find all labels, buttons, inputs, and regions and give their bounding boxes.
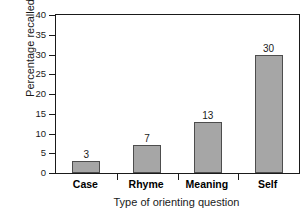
y-axis-tick: 20 (49, 94, 56, 95)
bar: 13 (194, 122, 222, 173)
y-axis-tick: 0 (49, 173, 56, 174)
bar-value-label: 30 (263, 43, 274, 54)
y-axis-tick: 5 (49, 153, 56, 154)
bar: 30 (255, 55, 283, 174)
y-axis-tick-label: 0 (16, 167, 46, 178)
y-axis-tick-label: 30 (16, 49, 46, 60)
x-axis-category-label: Rhyme (116, 178, 177, 190)
y-axis-tick-label: 20 (16, 88, 46, 99)
x-axis-category-label: Case (55, 178, 116, 190)
x-axis-category-label: Self (237, 178, 298, 190)
bar-value-label: 13 (202, 110, 213, 121)
bar-chart-figure: Percentage recalled 05101520253035403713… (0, 0, 308, 222)
bar-value-label: 7 (144, 133, 150, 144)
plot-area: 0510152025303540371330 (55, 14, 300, 174)
x-axis-title: Type of orienting question (55, 196, 298, 208)
bar-value-label: 3 (84, 149, 90, 160)
y-axis-tick: 25 (49, 74, 56, 75)
y-axis-tick-label: 10 (16, 128, 46, 139)
y-axis-tick-label: 40 (16, 9, 46, 20)
y-axis-tick: 30 (49, 55, 56, 56)
y-axis-tick-label: 5 (16, 147, 46, 158)
y-axis-tick: 35 (49, 35, 56, 36)
y-axis-tick: 10 (49, 134, 56, 135)
y-axis-tick-label: 15 (16, 108, 46, 119)
y-axis-tick-label: 35 (16, 29, 46, 40)
bar: 3 (72, 161, 100, 173)
y-axis-tick-label: 25 (16, 68, 46, 79)
bar: 7 (133, 145, 161, 173)
y-axis-tick: 40 (49, 15, 56, 16)
y-axis-tick: 15 (49, 114, 56, 115)
x-axis-category-label: Meaning (177, 178, 238, 190)
